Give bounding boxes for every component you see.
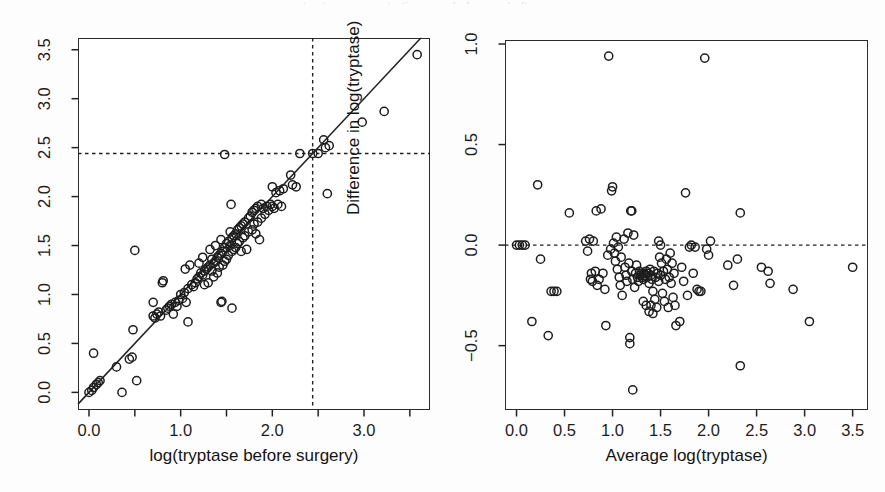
data-point xyxy=(169,310,177,318)
data-point xyxy=(613,265,621,273)
data-point xyxy=(597,205,605,213)
data-point xyxy=(666,249,674,257)
x-tick-label: 1.0 xyxy=(601,421,624,440)
x-axis-title: log(tryptase before surgery) xyxy=(150,446,359,466)
data-point xyxy=(592,207,600,215)
data-point xyxy=(323,190,331,198)
y-axis-title: Difference in log(tryptase) xyxy=(344,21,364,215)
data-point xyxy=(706,237,714,245)
y-tick-label: −0.5 xyxy=(462,329,481,362)
x-tick-label: 1.5 xyxy=(649,421,672,440)
data-point xyxy=(133,377,141,385)
plot-canvas xyxy=(78,38,432,412)
data-point xyxy=(131,246,139,254)
data-point xyxy=(724,261,732,269)
data-point xyxy=(681,189,689,197)
data-point xyxy=(129,326,137,334)
data-point xyxy=(669,293,677,301)
data-point xyxy=(620,235,628,243)
y-tick-label: 2.5 xyxy=(35,136,54,159)
data-point xyxy=(736,209,744,217)
data-point xyxy=(221,150,229,158)
y-tick-label: 1.0 xyxy=(35,283,54,306)
data-point xyxy=(243,245,251,253)
y-tick-label: 0.5 xyxy=(462,133,481,156)
data-point xyxy=(602,321,610,329)
data-point xyxy=(649,287,657,295)
axis-ticks xyxy=(499,44,853,416)
data-point xyxy=(611,257,619,265)
data-point xyxy=(680,277,688,285)
x-tick-label: 2.0 xyxy=(261,421,284,440)
y-tick-label: 3.0 xyxy=(35,87,54,110)
data-point xyxy=(626,340,634,348)
data-point xyxy=(764,267,772,275)
y-tick-label: 0.0 xyxy=(35,381,54,404)
scatter-panel-right: 0.00.51.01.52.02.53.03.5−0.50.00.51.0Ave… xyxy=(505,40,885,492)
x-tick-label: 0.0 xyxy=(78,421,101,440)
x-tick-label: 2.0 xyxy=(697,421,720,440)
plot-canvas xyxy=(505,40,870,412)
data-points xyxy=(85,51,421,397)
x-tick-label: 0.5 xyxy=(553,421,576,440)
data-point xyxy=(227,200,235,208)
data-point xyxy=(766,279,774,287)
data-point xyxy=(658,289,666,297)
data-point xyxy=(789,285,797,293)
data-point xyxy=(605,52,613,60)
x-axis-title: Average log(tryptase) xyxy=(605,446,767,466)
data-point xyxy=(565,209,573,217)
data-point xyxy=(534,181,542,189)
data-point xyxy=(660,297,668,305)
data-point xyxy=(583,247,591,255)
data-point xyxy=(544,331,552,339)
data-point xyxy=(413,51,421,59)
data-point xyxy=(89,349,97,357)
data-point xyxy=(678,263,686,271)
x-tick-label: 0.0 xyxy=(505,421,528,440)
y-tick-label: 0.0 xyxy=(462,234,481,257)
x-tick-label: 1.0 xyxy=(169,421,192,440)
data-point xyxy=(228,304,236,312)
data-point xyxy=(805,317,813,325)
data-point xyxy=(118,388,126,396)
data-point xyxy=(601,285,609,293)
y-tick-label: 1.5 xyxy=(35,234,54,257)
y-tick-label: 3.5 xyxy=(35,38,54,61)
data-points xyxy=(512,52,856,394)
y-tick-label: 1.0 xyxy=(462,33,481,56)
data-point xyxy=(149,298,157,306)
data-point xyxy=(849,263,857,271)
data-point xyxy=(618,291,626,299)
data-point xyxy=(733,255,741,263)
cutoff-header-text: tryptase concentration p g , before and … xyxy=(0,0,885,14)
data-point xyxy=(729,281,737,289)
data-point xyxy=(689,269,697,277)
x-tick-label: 3.0 xyxy=(793,421,816,440)
data-point xyxy=(701,54,709,62)
data-point xyxy=(651,295,659,303)
data-point xyxy=(599,269,607,277)
y-tick-label: 2.0 xyxy=(35,185,54,208)
y-tick-label: 0.5 xyxy=(35,332,54,355)
data-point xyxy=(184,318,192,326)
data-point xyxy=(528,317,536,325)
data-point xyxy=(668,259,676,267)
data-point xyxy=(536,255,544,263)
x-tick-label: 3.0 xyxy=(353,421,376,440)
data-point xyxy=(683,291,691,299)
data-point xyxy=(380,107,388,115)
x-tick-label: 3.5 xyxy=(841,421,864,440)
data-point xyxy=(629,386,637,394)
data-point xyxy=(736,362,744,370)
data-point xyxy=(631,283,639,291)
figure-root: tryptase concentration p g , before and … xyxy=(0,0,885,492)
x-tick-label: 2.5 xyxy=(745,421,768,440)
data-point xyxy=(617,253,625,261)
